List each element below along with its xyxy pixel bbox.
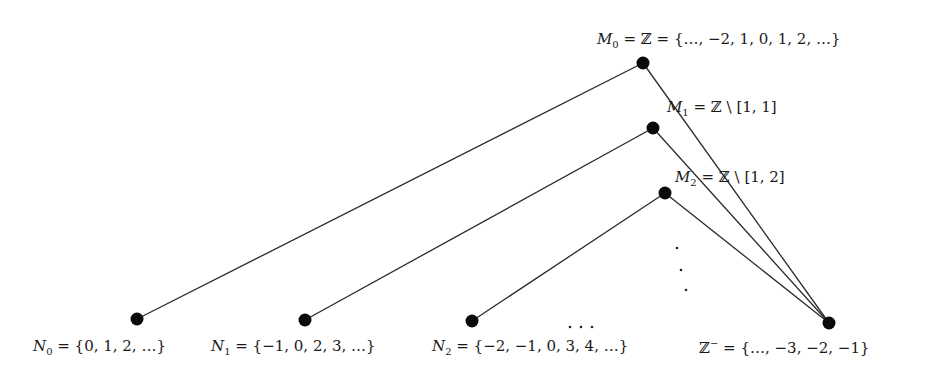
diagram-canvas: M0 = ℤ = {…, −2, 1, 0, 1, 2, …} M1 = ℤ \… (0, 0, 949, 382)
label-n2: N2 = {−2, −1, 0, 3, 4, …} (432, 339, 628, 357)
edge-M0-N0 (137, 63, 643, 319)
label-n1: N1 = {−1, 0, 2, 3, …} (211, 339, 376, 357)
edge-M1-N1 (305, 128, 653, 320)
horizontal-ellipsis (569, 326, 594, 329)
label-m2: M2 = ℤ \ [1, 2] (675, 170, 785, 188)
node-M2 (659, 187, 672, 200)
node-M1 (647, 122, 660, 135)
node-N0 (131, 313, 144, 326)
diagram-svg (0, 0, 949, 382)
edge-M2-Zminus (665, 193, 829, 323)
label-m0: M0 = ℤ = {…, −2, 1, 0, 1, 2, …} (597, 32, 840, 50)
label-n0: N0 = {0, 1, 2, …} (33, 339, 166, 357)
label-z-minus: ℤ− = {…, −3, −2, −1} (699, 339, 869, 356)
node-M0 (637, 57, 650, 70)
edge-M1-Zminus (653, 128, 829, 323)
node-Zminus (823, 317, 836, 330)
vertical-ellipsis (676, 247, 688, 292)
node-N1 (299, 314, 312, 327)
label-m1: M1 = ℤ \ [1, 1] (667, 100, 777, 118)
node-N2 (466, 315, 479, 328)
